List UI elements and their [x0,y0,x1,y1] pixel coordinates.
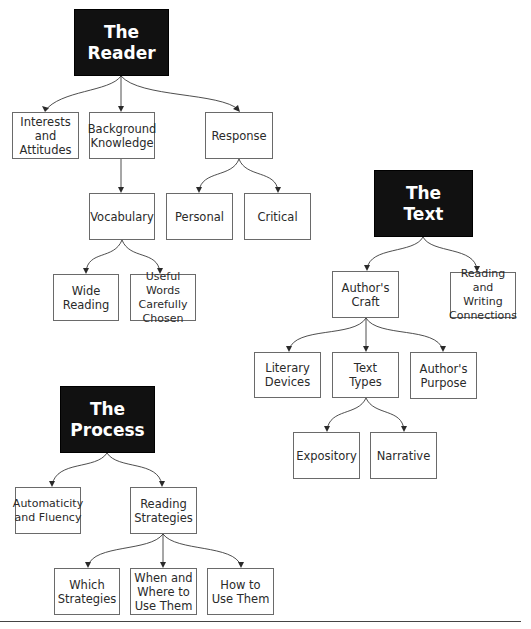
node-which-strategies: Which Strategies [54,568,120,615]
node-background-knowledge: Background Knowledge [89,112,155,159]
node-expository: Expository [293,432,360,479]
node-how-to-use-them: How to Use Them [207,568,274,615]
node-response: Response [205,112,273,159]
node-reading-strategies: Reading Strategies [130,487,197,534]
node-when-and-where-to-use-them: When and Where to Use Them [130,568,197,615]
node-reading-and-writing-connections: Reading and Writing Connections [450,272,516,318]
node-useful-words-carefully-chosen: Useful Words Carefully Chosen [130,274,196,321]
node-text-types: Text Types [332,352,399,398]
root-node-the-process: The Process [60,386,155,453]
node-vocabulary: Vocabulary [89,193,155,240]
root-node-the-text: The Text [374,170,473,237]
node-narrative: Narrative [370,432,437,479]
node-wide-reading: Wide Reading [53,274,119,321]
node-interests-and-attitudes: Interests and Attitudes [12,112,79,159]
node-literary-devices: Literary Devices [254,352,321,398]
node-authors-purpose: Author's Purpose [410,352,477,399]
bottom-divider [0,621,521,622]
node-personal: Personal [166,193,233,240]
root-node-the-reader: The Reader [74,9,169,76]
node-automaticity-and-fluency: Automaticity and Fluency [15,487,81,534]
concept-map: The Reader Interests and Attitudes Backg… [0,0,531,629]
node-authors-craft: Author's Craft [332,271,399,318]
node-critical: Critical [244,193,311,240]
